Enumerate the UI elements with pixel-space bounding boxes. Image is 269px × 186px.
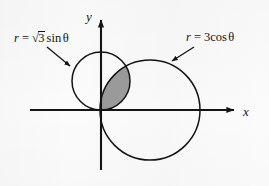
sine-label-radicand: 3 [38, 31, 45, 45]
sine-label-trig: sin [47, 31, 62, 45]
y-axis-label: y [86, 10, 92, 23]
sine-label-angle: θ [63, 31, 69, 45]
cosine-circle-pointer [172, 47, 194, 61]
sine-circle-pointer [47, 47, 70, 66]
cosine-label-trig: cos [210, 30, 227, 44]
cosine-label-angle: θ [228, 30, 234, 44]
sine-label-r: r [14, 31, 19, 45]
x-axis-label: x [243, 105, 249, 118]
plot-canvas [0, 0, 269, 186]
cosine-label-r: r [186, 30, 191, 44]
sine-label-equals: = [22, 31, 29, 45]
cosine-label-equals: = [194, 30, 201, 44]
polar-curves-figure: r=√3sinθ r=3cosθ y x [0, 0, 269, 186]
sine-circle-label: r=√3sinθ [14, 31, 69, 45]
cosine-circle-label: r=3cosθ [186, 31, 234, 44]
